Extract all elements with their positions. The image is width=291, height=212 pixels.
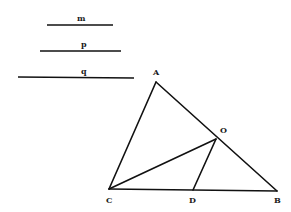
segment-m: m — [47, 13, 113, 25]
point-a-label: A — [152, 67, 160, 77]
segment-p-label: p — [81, 39, 87, 49]
edge-od — [193, 139, 216, 190]
edge-co — [109, 139, 216, 189]
edge-ab — [156, 82, 277, 191]
edge-ac — [109, 82, 156, 189]
point-b-label: B — [274, 195, 281, 205]
segment-q: q — [18, 66, 134, 78]
segment-q-label: q — [81, 66, 87, 76]
segment-q-line — [18, 77, 134, 78]
point-d-label: D — [189, 195, 196, 205]
point-c-label: C — [106, 195, 112, 205]
triangle-abc — [109, 82, 277, 191]
segment-p: p — [40, 39, 121, 51]
point-o-label: O — [220, 125, 227, 135]
segment-m-label: m — [77, 13, 86, 23]
geometry-diagram: m p q A O C D B — [0, 0, 291, 212]
